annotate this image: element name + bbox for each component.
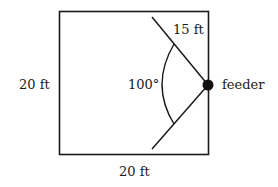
feeder-dot-icon — [203, 80, 214, 91]
lower-radius-line — [152, 85, 208, 149]
radius-label: 15 ft — [173, 22, 204, 37]
bottom-side-label: 20 ft — [119, 164, 150, 179]
left-side-label: 20 ft — [19, 77, 50, 92]
angle-arc — [162, 44, 174, 124]
diagram-canvas: 15 ft 100° feeder 20 ft 20 ft — [0, 0, 278, 187]
angle-label: 100° — [128, 77, 159, 92]
feeder-label: feeder — [222, 77, 265, 92]
